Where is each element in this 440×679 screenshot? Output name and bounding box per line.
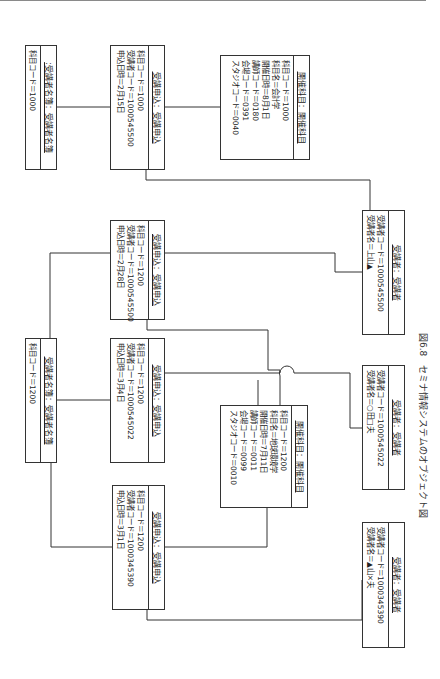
attr-course-name: 科目名＝地球環境学: [268, 410, 278, 503]
attr-course-code: 科目コード＝1200: [135, 343, 145, 458]
object-application-1000-0215: 受講申込：受講申込 科目コード＝1000 受講者コード＝1000545500 申…: [110, 45, 165, 170]
link-app0228-course1200: [147, 320, 280, 405]
object-application-1200-0301: 受講申込：受講申込 科目コード＝1200 受講者コード＝1000345390 申…: [112, 485, 165, 610]
attr-lecturer-code: 講師コード＝0180: [250, 60, 260, 155]
object-header: 受講申込：受講申込: [148, 46, 164, 169]
link-app0301-student345390: [147, 580, 362, 620]
object-header: :受講者名簿：受講者名簿: [40, 46, 56, 169]
attr-student-code: 受講者コード＝1000345390: [125, 490, 135, 605]
object-course-1000: 開催科目：開催科目 科目コード＝1000 科目名＝会計学 開催日時＝8月1日 講…: [220, 55, 310, 160]
attr-application-date: 申込日時＝3月1日: [115, 490, 125, 605]
object-attributes: 受講者コード＝1000545500 受講者名＝上山▲: [362, 211, 388, 334]
attr-student-code: 受講者コード＝1000345390: [375, 527, 385, 643]
link-roster1200-app0228: [50, 253, 110, 338]
object-student-1000545022: 受講者：受講者 受講者コード＝1000545022 受講者名＝○田□夫: [362, 365, 405, 490]
object-attributes: 科目コード＝1000 科目名＝会計学 開催日時＝8月1日 講師コード＝0180 …: [227, 56, 293, 159]
link-app0301-course1200: [165, 508, 267, 547]
attr-student-code: 受講者コード＝1000545500: [125, 50, 135, 165]
object-header: 受講者：受講者: [388, 366, 404, 489]
object-attributes: 科目コード＝1000: [24, 46, 40, 169]
figure-number: 図6.8: [418, 333, 428, 356]
object-header: 受講者名簿：受講者名簿: [40, 339, 56, 462]
link-app0228-student545500: [165, 253, 362, 272]
link-app0215-student545500: [146, 170, 370, 210]
object-attributes: 受講者コード＝1000345390 受講者名＝▲山×夫: [362, 523, 388, 647]
attr-course-code: 科目コード＝1200: [135, 490, 145, 605]
figure-title: セミナ情報システムのオブジェクト図: [418, 365, 428, 518]
object-header: 受講者：受講者: [388, 523, 404, 647]
object-diagram: :受講者名簿：受講者名簿 科目コード＝1000 受講申込：受講申込 科目コード＝…: [0, 0, 440, 679]
object-attributes: 科目コード＝1200 受講者コード＝1000545500 申込日時＝2月28日: [112, 221, 148, 319]
attr-application-date: 申込日時＝2月28日: [115, 225, 125, 315]
object-attributes: 科目コード＝1200 受講者コード＝1000345390 申込日時＝3月1日: [112, 486, 148, 609]
object-header: 開催科目：開催科目: [291, 406, 307, 507]
attr-course-code: 科目コード＝1200: [135, 225, 145, 315]
attr-session-date: 開催日時＝8月1日: [260, 60, 270, 155]
attr-course-code: 科目コード＝1000: [27, 50, 37, 165]
object-student-1000345390: 受講者：受講者 受講者コード＝1000345390 受講者名＝▲山×夫: [362, 522, 405, 648]
attr-session-date: 開催日時＝7月11日: [258, 410, 268, 503]
object-attributes: 科目コード＝1200: [24, 339, 40, 462]
attr-student-name: 受講者名＝○田□夫: [365, 370, 375, 485]
object-attributes: 科目コード＝1200 科目名＝地球環境学 開催日時＝7月11日 講師コード＝00…: [225, 406, 291, 507]
attr-student-code: 受講者コード＝1000545022: [125, 343, 135, 458]
attr-student-name: 受講者名＝▲山×夫: [365, 527, 375, 643]
attr-student-code: 受講者コード＝1000545500: [375, 215, 385, 330]
object-header: 開催科目：開催科目: [293, 56, 309, 159]
attr-course-code: 科目コード＝1000: [280, 60, 290, 155]
object-student-1000545500: 受講者：受講者 受講者コード＝1000545500 受講者名＝上山▲: [362, 210, 405, 335]
attr-course-code: 科目コード＝1000: [135, 50, 145, 165]
object-attributes: 科目コード＝1200 受講者コード＝1000545022 申込日時＝3月4日: [112, 339, 148, 462]
attr-student-code: 受講者コード＝1000545500: [125, 225, 135, 315]
object-attributes: 受講者コード＝1000545022 受講者名＝○田□夫: [362, 366, 388, 489]
attr-venue-code: 会場コード＝0099: [238, 410, 248, 503]
object-attributes: 科目コード＝1000 受講者コード＝1000545500 申込日時＝2月15日: [112, 46, 148, 169]
attr-studio-code: スタジオコード＝0040: [230, 60, 240, 155]
attr-course-name: 科目名＝会計学: [270, 60, 280, 155]
attr-course-code: 科目コード＝1200: [278, 410, 288, 503]
object-header: 受講申込：受講申込: [148, 221, 164, 319]
link-roster1200-app0301: [51, 463, 112, 547]
figure-caption: 図6.8 セミナ情報システムのオブジェクト図: [417, 333, 430, 518]
object-course-1200: 開催科目：開催科目 科目コード＝1200 科目名＝地球環境学 開催日時＝7月11…: [220, 405, 308, 508]
object-header: 受講申込：受講申込: [148, 486, 164, 609]
object-roster-1000: :受講者名簿：受講者名簿 科目コード＝1000: [25, 45, 57, 170]
object-header: 受講申込：受講申込: [148, 339, 164, 462]
attr-course-code: 科目コード＝1200: [27, 343, 37, 458]
object-roster-1200: 受講者名簿：受講者名簿 科目コード＝1200: [25, 338, 57, 463]
object-header: 受講者：受講者: [388, 211, 404, 334]
attr-venue-code: 会場コード＝0391: [240, 60, 250, 155]
object-application-1200-0304: 受講申込：受講申込 科目コード＝1200 受講者コード＝1000545022 申…: [110, 338, 165, 463]
attr-studio-code: スタジオコード＝0010: [228, 410, 238, 503]
attr-application-date: 申込日時＝3月4日: [115, 343, 125, 458]
attr-student-code: 受講者コード＝1000545022: [375, 370, 385, 485]
object-application-1200-0228: 受講申込：受講申込 科目コード＝1200 受講者コード＝1000545500 申…: [110, 220, 165, 320]
attr-application-date: 申込日時＝2月15日: [115, 50, 125, 165]
attr-student-name: 受講者名＝上山▲: [365, 215, 375, 330]
attr-lecturer-code: 講師コード＝0011: [248, 410, 258, 503]
